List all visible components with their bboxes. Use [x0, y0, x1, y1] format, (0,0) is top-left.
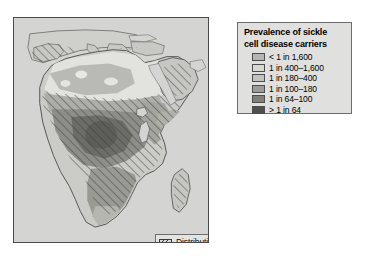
legend-swatch-icon	[252, 74, 265, 82]
map-graphic	[14, 18, 208, 242]
legend-item-label: 1 in 100–180	[269, 84, 317, 94]
malaria-legend-box: Distribution of malaria, 1920s	[155, 234, 209, 243]
legend-item: 1 in 400–1,600	[252, 63, 346, 74]
map-panel: Distribution of malaria, 1920s	[13, 17, 209, 243]
legend-item: < 1 in 1,600	[252, 52, 346, 63]
legend-item: 1 in 100–180	[252, 84, 346, 95]
malaria-legend-label: Distribution of malaria, 1920s	[176, 237, 209, 243]
legend-item: 1 in 180–400	[252, 73, 346, 84]
legend-swatch-icon	[252, 106, 265, 114]
legend-item-label: 1 in 180–400	[269, 73, 317, 83]
legend-swatch-icon	[252, 64, 265, 72]
legend-swatch-icon	[252, 85, 265, 93]
legend-item: 1 in 64–100	[252, 94, 346, 105]
legend-swatch-icon	[252, 53, 265, 61]
legend-item-label: < 1 in 1,600	[269, 52, 312, 62]
prevalence-legend-panel: Prevalence of sickle cell disease carrie…	[237, 22, 352, 114]
legend-item-label: > 1 in 64	[269, 105, 301, 115]
legend-swatch-icon	[252, 95, 265, 103]
prevalence-legend-title: Prevalence of sickle cell disease carrie…	[244, 27, 346, 50]
prevalence-legend-items: < 1 in 1,600 1 in 400–1,600 1 in 180–400…	[252, 52, 346, 115]
legend-item-label: 1 in 64–100	[269, 94, 312, 104]
malaria-hatch-swatch-icon	[159, 239, 172, 243]
legend-item-label: 1 in 400–1,600	[269, 63, 324, 73]
legend-item: > 1 in 64	[252, 105, 346, 116]
